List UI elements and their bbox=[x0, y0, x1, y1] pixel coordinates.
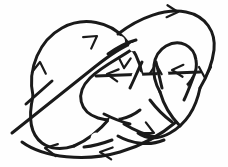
knot-diagram-canvas bbox=[0, 0, 228, 167]
crossing-gap-bottom-left bbox=[91, 133, 102, 144]
diagram-background bbox=[0, 0, 228, 167]
knot-diagram-figure: Oriented knot diagram bbox=[0, 0, 228, 167]
crossing-gap-upper-center bbox=[129, 43, 137, 51]
